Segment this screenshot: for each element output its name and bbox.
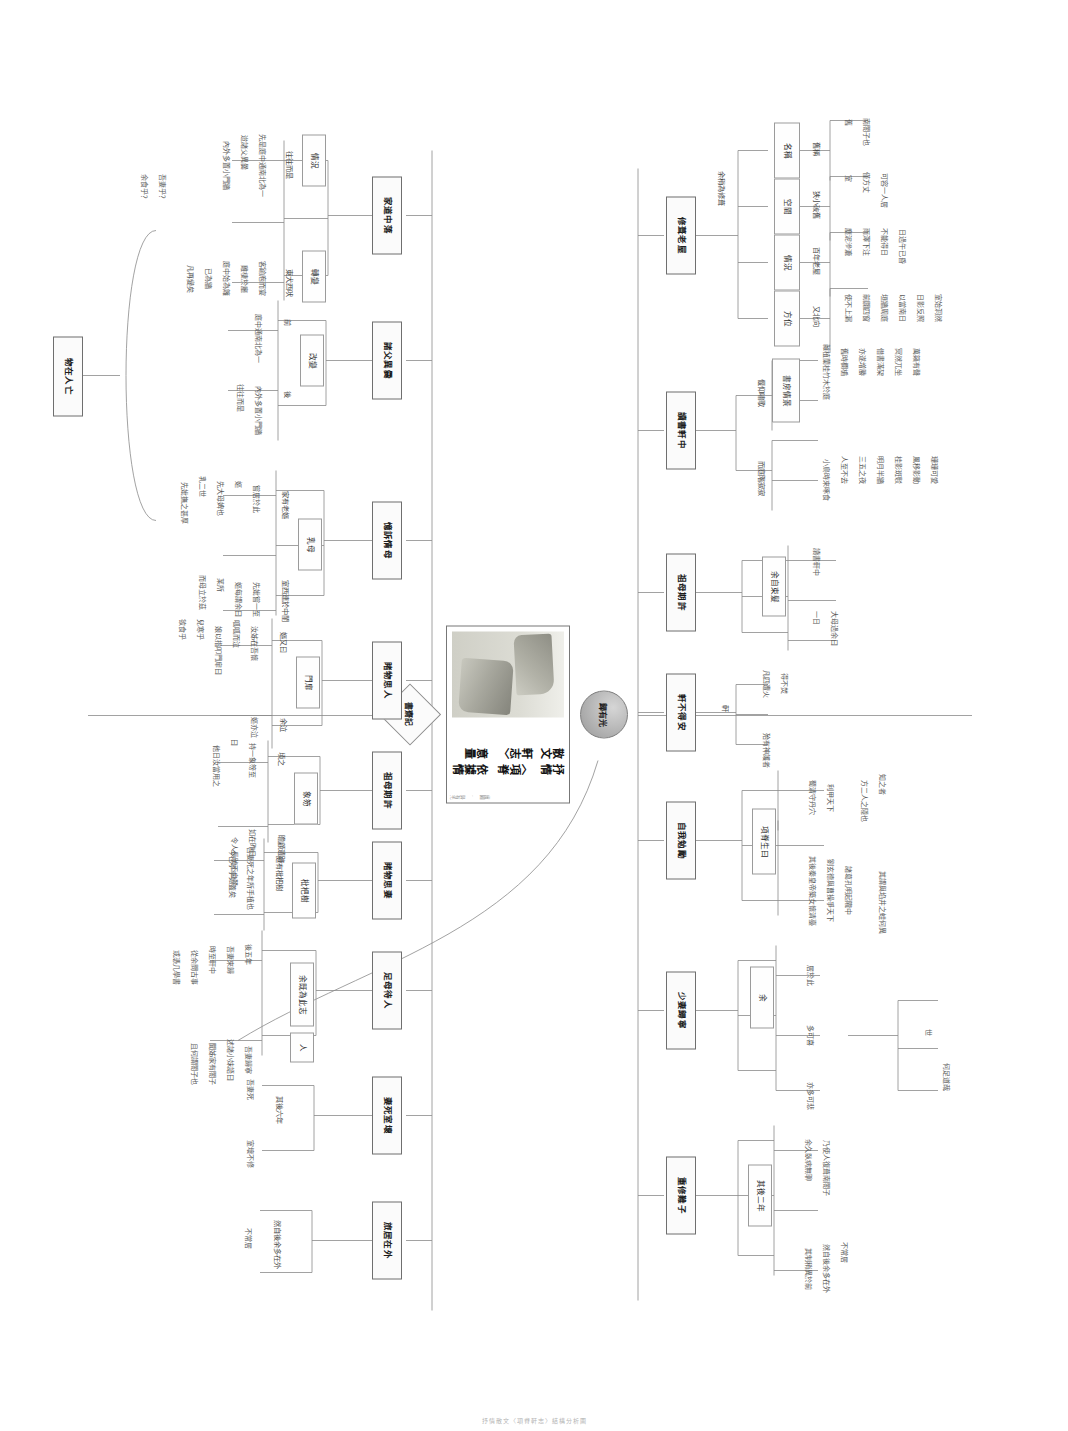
leaf-text: 得不焚 [776,652,790,714]
leaf-text: 先大母婢也 [212,458,226,538]
group-label: 空間 [783,198,792,214]
group-label: 象笏 [302,790,311,806]
branch-main-zhu-fu-yi-cuan[interactable]: 諸父異爨 [372,321,402,399]
leaf-text: 室 [840,154,854,202]
group-label: 情況 [783,254,792,270]
leaf-text: 居於此 [802,946,816,1004]
branch-label: 妻死室壞 [382,1096,392,1134]
branch-main-zu-mu-dai-ren[interactable]: 足母待人 [372,951,402,1029]
leaf-text: 方二人之隱也 [856,756,870,844]
group-label: 其後二年 [756,1179,765,1211]
leaf-text: 余久臥病無聊 [800,1118,814,1200]
leaf-text: 蜀清守丹穴 [804,758,818,836]
leaf-text: 小鳥時來啄食 [818,438,832,520]
group-xiang-hu[interactable]: 象笏 [294,772,318,824]
group-fang-wei[interactable]: 方位 [774,290,800,346]
branch-main-du-wu-si-qi[interactable]: 睹物思妻 [372,841,402,919]
branch-main-shao-qi-gui-ning[interactable]: 少妻歸寧 [666,971,696,1049]
connector-text: 其後六年 [272,1078,286,1140]
leaf-text: 知之者 [874,756,888,812]
group-label: 余 [758,993,767,1001]
leaf-text: 庭中始為籬 [218,236,232,320]
branch-label: 讀書軒中 [676,411,686,449]
leaf-text: 不常居 [836,1222,850,1282]
center-illustration [452,631,564,717]
leaf-text: 室始洞然 [930,276,944,338]
branch-main-zu-mu-qi-xu-upper[interactable]: 祖母期許 [666,553,696,631]
group-kong-jian[interactable]: 空間 [774,178,800,234]
connector-text: 庭有枇杷樹 [272,836,286,910]
branch-main-qi-si-shi-huai[interactable]: 妻死室壞 [372,1076,402,1154]
group-ru-mu[interactable]: 乳母 [298,518,322,570]
leaf-text: 桂影斑駁 [890,438,904,500]
branch-main-yi-su-qing-mu[interactable]: 憶訴情母 [372,501,402,579]
leaf-text: 曰 [226,722,240,762]
branch-label: 足母待人 [382,971,392,1009]
lower-root-node[interactable]: 物在人亡 [53,336,83,416]
group-yu-ju-yu-ci[interactable]: 余 [750,966,774,1028]
group-label: 枇杷樹 [300,878,309,902]
branch-main-zu-mu-qi-xu-lower[interactable]: 祖母期許 [372,751,402,829]
mindmap-rotation-wrapper: 歸有光 抒情散文 〈項脊軒志〉 依據情意量 繪圖 · 歸有光 書齋記 修葺老屋 … [0,0,1068,1431]
hub-author-node[interactable]: 歸有光 [580,690,628,738]
leaf-text: 借書滿架 [872,330,886,392]
branch-main-du-shu-xuan-zhong[interactable]: 讀書軒中 [666,391,696,469]
group-qing-kuang-lower[interactable]: 情況 [302,134,326,186]
mindmap-stage: 歸有光 抒情散文 〈項脊軒志〉 依據情意量 繪圖 · 歸有光 書齋記 修葺老屋 … [0,0,1068,1431]
group-ming-cheng[interactable]: 名稱 [774,122,800,178]
branch-main-zhong-xiu-nan-ge[interactable]: 重修難子 [666,1156,696,1234]
branch-label: 家道中落 [382,196,392,234]
leaf-text: 乳二世 [194,458,208,514]
center-topic-card[interactable]: 抒情散文 〈項脊軒志〉 依據情意量 繪圖 · 歸有光 [446,625,570,803]
group-shu-fang-qing-jing[interactable]: 書房情景 [772,358,800,422]
connector-text: 嫗又曰 [276,614,290,670]
leaf-text: 時至軒中 [204,928,218,990]
group-zhuan-bian[interactable]: 轉變 [302,250,326,302]
leaf-text: 利甲天下 [822,758,836,836]
leaf-text: 劉玄德與曹操爭天下 [822,838,836,942]
leaf-text: 室壞不修 [242,1122,256,1184]
lower-root-label: 物在人亡 [63,357,73,395]
branch-main-ju-ju-zai-wai[interactable]: 旅居在外 [372,1201,402,1279]
group-men-fei[interactable]: 門扉 [296,656,320,708]
group-yu-ji-wei-ci-zhi[interactable]: 余既為此志 [290,962,314,1026]
branch-main-du-wu-si-ren[interactable]: 睹物思人 [372,641,402,719]
group-ren[interactable]: 人 [290,1032,314,1062]
leaf-text: 冥然兀坐 [890,330,904,392]
connector-text: 家有老嫗 [278,468,292,540]
leaf-text: 大母過余曰 [826,592,840,664]
branch-main-xuan-bu-de-an[interactable]: 軒不得安 [666,673,696,751]
branch-main-xiu-qi-lao-wu[interactable]: 修葺老屋 [666,196,696,274]
branch-main-zi-wo-mian-li[interactable]: 自我勉勵 [666,801,696,879]
leaf-text: 乃使人復葺南閤子 [818,1118,832,1216]
leaf-text: 然自後余多在外 [818,1222,832,1314]
center-title-line2: 〈項脊軒志〉 [490,743,533,775]
leaf-text: 以當南日 [894,276,908,338]
leaf-text: 僅方丈 [858,154,872,210]
group-pi-pa-shu[interactable]: 枇杷樹 [292,862,316,918]
leaf-text: 諸葛孔明起隴中 [840,838,854,942]
leaf-text: 嫗 [230,458,244,510]
group-zu-mu-upper[interactable]: 余自束髮 [762,556,786,616]
branch-main-jia-dao-zhong-luo[interactable]: 家道中落 [372,176,402,254]
leaf-text: 多可喜 [802,1006,816,1064]
group-gai-bian[interactable]: 改變 [300,334,324,386]
branch-label: 憶訴情母 [382,521,392,559]
group-qing-kuang[interactable]: 情況 [774,234,800,290]
group-label: 余既為此志 [298,974,307,1014]
group-xiang-ji-sheng[interactable]: 項脊生曰 [752,808,776,874]
leaf-text: 汝姊在吾懷 [246,600,260,686]
leaf-text: 其謂與埳井之蛙何異 [874,848,888,956]
leaf-text: 世 [920,986,934,1078]
hub-genre-label: 書齋記 [405,702,416,726]
leaf-text: 後五年 [240,928,254,980]
leaf-text: 嘗居於此 [248,458,262,538]
leaf-text: 今已亭亭如蓋矣 [224,820,238,926]
center-title-line1: 抒情散文 [535,743,564,775]
leaf-text: 雜植蘭桂竹木於庭 [818,330,832,412]
branch-label: 祖母期許 [676,573,686,611]
leaf-text: 不常居 [240,1210,254,1266]
leaf-text: 述諸小妹語曰 [222,1014,236,1104]
branch-label: 自我勉勵 [676,821,686,859]
group-qi-hou-er-nian[interactable]: 其後二年 [748,1164,772,1226]
